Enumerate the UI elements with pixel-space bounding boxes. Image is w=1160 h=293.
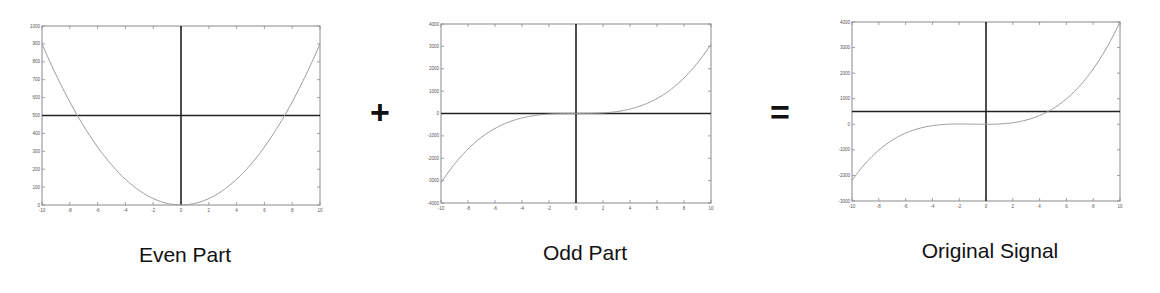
x-tick-label: -4: [930, 204, 934, 209]
y-tick-label: 3000: [840, 45, 851, 50]
x-tick-label: 8: [1092, 204, 1095, 209]
x-tick-label: -2: [957, 204, 961, 209]
x-tick-label: 0: [985, 204, 988, 209]
x-tick-label: 6: [1065, 204, 1068, 209]
x-tick-label: -6: [904, 204, 908, 209]
y-tick-label: 1000: [840, 96, 851, 101]
y-tick-label: 4000: [840, 20, 851, 25]
plus-operator: +: [362, 92, 398, 132]
odd-part-caption: Odd Part: [500, 241, 670, 265]
original-signal-caption: Original Signal: [890, 239, 1090, 263]
y-tick-label: -1000: [838, 147, 850, 152]
x-tick-label: 2: [1012, 204, 1015, 209]
x-tick-label: -8: [877, 204, 881, 209]
y-tick-label: 2000: [840, 71, 851, 76]
equals-operator: =: [762, 92, 798, 132]
x-tick-label: -10: [849, 204, 856, 209]
even-part-caption: Even Part: [100, 243, 270, 267]
y-tick-label: -3000: [838, 199, 850, 204]
y-tick-label: 0: [847, 122, 850, 127]
x-tick-label: 4: [1038, 204, 1041, 209]
x-tick-label: 10: [1117, 204, 1123, 209]
y-tick-label: -2000: [838, 173, 850, 178]
